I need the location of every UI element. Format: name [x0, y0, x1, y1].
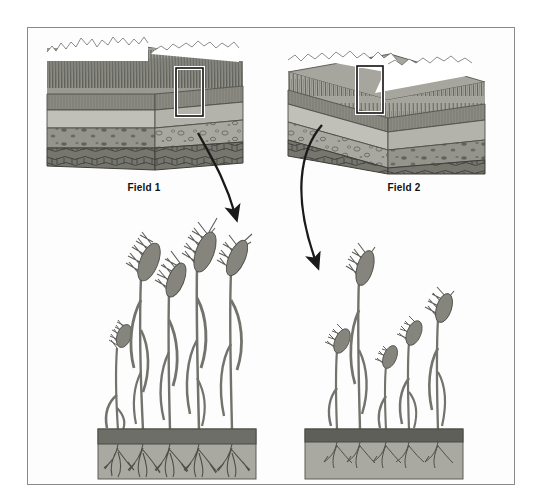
field-2-label: Field 2 [364, 182, 444, 193]
wheat-detail-field-2 [305, 243, 463, 479]
soil-block-field-2 [288, 51, 485, 174]
field-1-label: Field 1 [104, 182, 184, 193]
soil-block-field-1 [40, 37, 243, 170]
figure-artwork [0, 0, 542, 500]
wheat-detail-field-1 [98, 218, 256, 479]
illustration-stage: Field 1 Field 2 [0, 0, 542, 500]
